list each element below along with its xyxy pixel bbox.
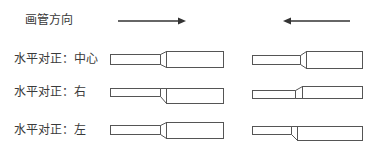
pipe-left-right-aligned (111, 89, 224, 104)
pipe-left-center (111, 52, 224, 68)
pipe-reducer-diagram (0, 0, 378, 156)
pipe-right-right-aligned (253, 87, 363, 99)
arrow-left-icon (283, 18, 350, 25)
arrow-right-icon (118, 18, 186, 25)
pipe-right-left-aligned (253, 127, 363, 141)
pipe-left-left-aligned (111, 123, 224, 139)
pipe-right-center (253, 52, 363, 69)
